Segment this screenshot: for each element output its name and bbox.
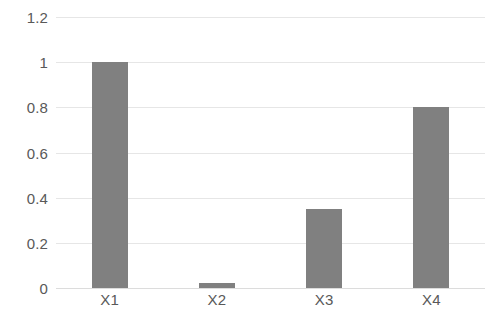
y-axis-tick-label: 1 bbox=[0, 55, 48, 70]
bar-slot bbox=[56, 17, 163, 288]
axis-baseline bbox=[56, 288, 485, 289]
x-axis-tick-label: X1 bbox=[100, 292, 119, 307]
y-axis-tick-label: 0.2 bbox=[0, 235, 48, 250]
y-axis-tick-label: 0.4 bbox=[0, 190, 48, 205]
y-axis-tick-label: 0.8 bbox=[0, 100, 48, 115]
y-axis-tick-label: 0.6 bbox=[0, 145, 48, 160]
bar-chart: 00.20.40.60.811.2 X1X2X3X4 bbox=[0, 0, 499, 327]
x-axis-tick-label: X3 bbox=[315, 292, 334, 307]
bar-series bbox=[56, 17, 485, 288]
y-axis-tick-label: 1.2 bbox=[0, 10, 48, 25]
y-axis: 00.20.40.60.811.2 bbox=[0, 0, 48, 327]
y-axis-tick-label: 0 bbox=[0, 281, 48, 296]
bar-slot bbox=[163, 17, 270, 288]
x-axis: X1X2X3X4 bbox=[56, 292, 485, 322]
bar[interactable] bbox=[199, 283, 235, 288]
bar-slot bbox=[378, 17, 485, 288]
x-axis-tick-label: X2 bbox=[208, 292, 227, 307]
x-axis-tick-label: X4 bbox=[422, 292, 441, 307]
bar-slot bbox=[271, 17, 378, 288]
bar[interactable] bbox=[92, 62, 128, 288]
plot-area bbox=[56, 17, 485, 288]
bar[interactable] bbox=[306, 209, 342, 288]
bar[interactable] bbox=[413, 107, 449, 288]
